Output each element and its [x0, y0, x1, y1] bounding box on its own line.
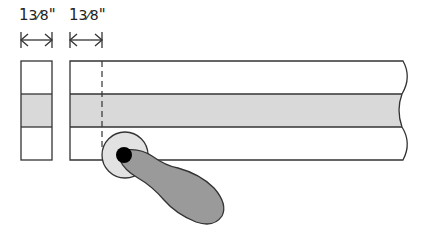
dimension-label-right: 13⁄8" — [69, 6, 106, 24]
pivot-dot — [116, 147, 132, 163]
dimension-unit: " — [49, 6, 56, 24]
end-piece — [21, 61, 52, 160]
dimension-whole: 1 — [19, 6, 29, 24]
dimension-fraction: 3⁄8 — [29, 7, 49, 23]
board-diagram — [0, 0, 429, 234]
handle — [120, 150, 224, 224]
dimension-label-left: 13⁄8" — [19, 6, 56, 24]
dimension-unit: " — [99, 6, 106, 24]
dimension-arrow-right — [70, 32, 102, 48]
dimension-arrow-left — [21, 32, 52, 48]
dimension-whole: 1 — [69, 6, 79, 24]
dimension-fraction: 3⁄8 — [79, 7, 99, 23]
